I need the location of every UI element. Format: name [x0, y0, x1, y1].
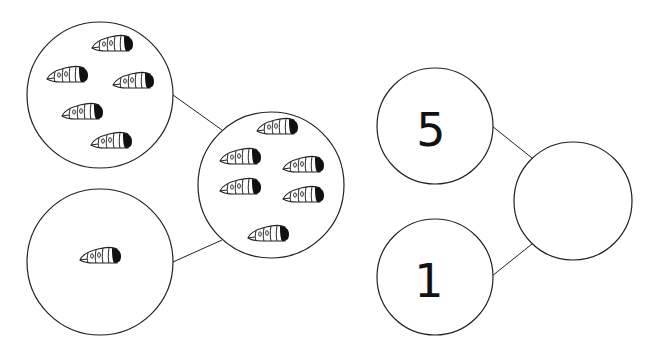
part-b-number: 1 — [399, 258, 459, 304]
connector-line — [492, 126, 532, 158]
number-whole-circle[interactable] — [514, 142, 632, 260]
connector-line — [492, 244, 532, 276]
connector-line — [173, 240, 222, 262]
number-bond-worksheet: 5 1 — [0, 0, 657, 356]
part-a-number: 5 — [401, 107, 461, 153]
connector-line — [173, 95, 222, 130]
worksheet-canvas — [0, 0, 657, 356]
